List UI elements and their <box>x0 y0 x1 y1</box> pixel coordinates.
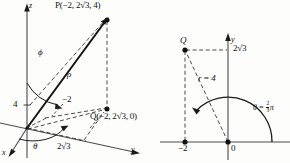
right-point-Q-label: Q <box>180 36 186 45</box>
right-y-arrowhead <box>225 33 231 41</box>
x-projection-neg2-label: −2 <box>62 95 71 104</box>
right-diagram-group <box>160 33 290 160</box>
theta-eq-lead: θ = <box>253 103 266 112</box>
theta-angle-label-left: θ <box>33 142 37 151</box>
z-axis <box>24 4 30 159</box>
phi-arc <box>27 83 58 105</box>
y-projection-2sqrt3-label: 2√3 <box>57 142 70 151</box>
z-tick-4-label: 4 <box>13 100 17 109</box>
x-axis <box>9 128 28 157</box>
z-axis-label: z <box>29 2 32 10</box>
right-x-neg2-label: −2 <box>178 144 187 153</box>
x-axis-label: x <box>2 149 5 157</box>
phi-angle-label: ϕ <box>38 48 42 57</box>
point-P-dot <box>105 18 110 23</box>
point-Q-label-left: Q(−2, 2√3, 0) <box>90 112 137 121</box>
right-y-value-label: 2√3 <box>233 44 246 53</box>
theta-eq-tail: π <box>270 103 274 112</box>
figure-vector-graphics <box>0 0 290 163</box>
coordinate-figure: z P(−2, 2√3, 4) 4 ϕ ρ −2 Q(−2, 2√3, 0) θ… <box>0 0 290 163</box>
dashed-z-to-P <box>30 20 105 105</box>
left-diagram-group <box>0 4 140 159</box>
y-axis-label: y <box>131 146 134 154</box>
right-origin-dot <box>225 139 230 144</box>
right-theta-equation: θ = 23π <box>253 101 274 113</box>
right-point-Q-dot <box>182 47 187 52</box>
origin-dot-left <box>25 126 28 129</box>
radius-r-label: r = 4 <box>198 74 216 83</box>
point-P-label: P(−2, 2√3, 4) <box>55 1 100 10</box>
rho-segment-label: ρ <box>67 70 71 79</box>
right-origin-label: 0 <box>231 144 235 153</box>
